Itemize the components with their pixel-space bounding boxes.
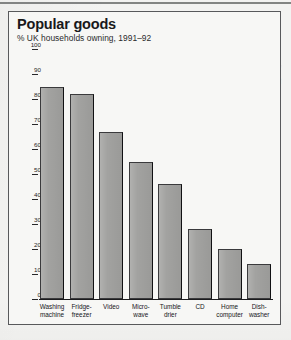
y-axis-tick-mark [32, 199, 38, 200]
y-axis-tick-label: 80 [15, 92, 41, 98]
y-axis-tick-mark [32, 149, 38, 150]
bar-shading [189, 230, 211, 298]
y-axis-tick-mark [32, 124, 38, 125]
y-axis-tick-mark [32, 224, 38, 225]
bar[interactable] [99, 132, 123, 300]
bar-shading [248, 265, 270, 298]
y-axis-tick-mark [32, 174, 38, 175]
y-axis-tick-label: 20 [15, 242, 41, 248]
bar-group [40, 83, 68, 300]
y-axis-tick-label: 60 [15, 142, 41, 148]
chart-container: Popular goods % UK households owning, 19… [8, 11, 281, 325]
bar-group [188, 225, 216, 299]
bar-group [99, 128, 127, 300]
y-axis-tick-label: 30 [15, 217, 41, 223]
y-axis-tick-mark [32, 99, 38, 100]
y-axis-tick-label: 70 [15, 117, 41, 123]
bar-group [247, 260, 275, 299]
bar-shading [219, 250, 241, 298]
bar-shading [130, 163, 152, 299]
x-axis-baseline [39, 299, 273, 300]
bar-group [129, 158, 157, 300]
y-axis-tick-mark [32, 274, 38, 275]
y-axis-tick-mark [32, 249, 38, 250]
y-axis-tick-mark [32, 49, 38, 50]
y-axis-tick-mark [32, 74, 38, 75]
screenshot-page: Who hates those the Popular goods % UK h… [0, 0, 291, 340]
bar[interactable] [188, 229, 212, 299]
bar[interactable] [247, 264, 271, 299]
bar-shading [41, 88, 63, 299]
bar[interactable] [218, 249, 242, 299]
bar-shading [159, 185, 181, 298]
bar[interactable] [70, 94, 94, 299]
plot-area: 1009080706050403020100 Washing machineFr… [9, 12, 282, 326]
y-axis-tick-label: 90 [15, 67, 41, 73]
bar[interactable] [158, 184, 182, 299]
y-axis-tick-label: 10 [15, 267, 41, 273]
bar-group [70, 90, 98, 299]
bar-shading [71, 95, 93, 298]
y-axis-tick-label: 100 [15, 42, 41, 48]
bar[interactable] [129, 162, 153, 300]
y-axis-tick-label: 50 [15, 167, 41, 173]
bar-shading [100, 133, 122, 299]
bar-group [158, 180, 186, 299]
bar[interactable] [40, 87, 64, 300]
y-axis-tick-label: 0 [15, 292, 41, 298]
category-label: Dish- washer [240, 303, 278, 318]
y-axis-tick-label: 40 [15, 192, 41, 198]
bar-group [218, 245, 246, 299]
top-divider-rule [0, 2, 291, 4]
y-axis-tick-mark [32, 299, 38, 300]
